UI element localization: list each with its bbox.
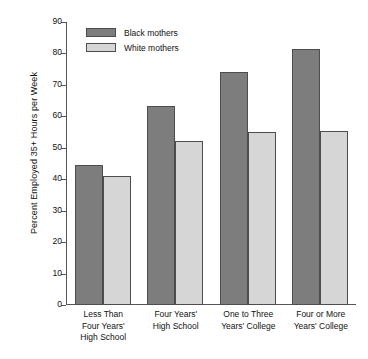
x-axis-category-label: Less ThanFour Years'High School <box>67 309 139 344</box>
y-tick-label: 50 <box>53 142 62 152</box>
category-label-line: High School <box>67 332 139 344</box>
category-label-line: Years' College <box>212 321 284 333</box>
legend-swatch <box>86 43 116 52</box>
bar-chart: Percent Employed 35+ Hours per Week 0102… <box>0 0 368 359</box>
legend-item: White mothers <box>86 41 179 54</box>
bar <box>103 176 131 305</box>
bar <box>147 106 175 305</box>
bar-group <box>75 22 131 305</box>
bar-group <box>292 22 348 305</box>
legend: Black mothersWhite mothers <box>86 26 179 56</box>
y-tick-label: 20 <box>53 236 62 246</box>
bar-group <box>147 22 203 305</box>
y-tick-label: 0 <box>57 299 62 309</box>
category-label-line: One to Three <box>212 309 284 321</box>
x-axis-category-labels: Less ThanFour Years'High SchoolFour Year… <box>67 309 357 344</box>
y-tick-label: 90 <box>53 16 62 26</box>
legend-label: Black mothers <box>124 28 178 38</box>
x-axis-category-label: One to ThreeYears' College <box>212 309 284 344</box>
plot-area: 0102030405060708090 <box>66 22 356 305</box>
category-label-line: Four Years' <box>140 309 212 321</box>
bar-group <box>220 22 276 305</box>
y-tick-label: 70 <box>53 79 62 89</box>
legend-swatch <box>86 28 116 37</box>
y-tick-label: 30 <box>53 205 62 215</box>
bar-groups <box>67 22 356 305</box>
category-label-line: Less Than <box>67 309 139 321</box>
category-label-line: High School <box>140 321 212 333</box>
x-axis-category-label: Four or MoreYears' College <box>285 309 357 344</box>
bar <box>292 49 320 305</box>
y-tick-label: 40 <box>53 173 62 183</box>
bar <box>220 72 248 305</box>
y-axis-title: Percent Employed 35+ Hours per Week <box>29 33 39 273</box>
category-label-line: Four Years' <box>67 321 139 333</box>
y-tick-label: 60 <box>53 110 62 120</box>
x-axis-category-label: Four Years'High School <box>140 309 212 344</box>
bar <box>248 132 276 305</box>
bar <box>75 165 103 305</box>
category-label-line: Years' College <box>285 321 357 333</box>
y-tick-label: 80 <box>53 47 62 57</box>
category-label-line: Four or More <box>285 309 357 321</box>
legend-label: White mothers <box>124 43 179 53</box>
bar <box>320 131 348 305</box>
bar <box>175 141 203 305</box>
y-tick-label: 10 <box>53 268 62 278</box>
legend-item: Black mothers <box>86 26 179 39</box>
